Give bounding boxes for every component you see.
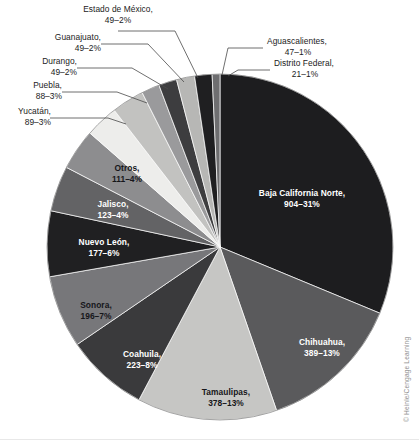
callout-label-aguascalientes: Aguascalientes, 47–1% (267, 36, 329, 58)
callout-label-yucatan: Yucatán, 89–3% (0, 106, 51, 128)
slice-value-coahuila: 223–8% (123, 360, 161, 371)
leader-line-durango (77, 68, 168, 89)
callout-value-estado-de-mexico: 49–2% (83, 15, 153, 26)
slice-name-nuevo-leon: Nuevo León, (79, 237, 130, 247)
callout-value-yucatan: 89–3% (0, 117, 51, 128)
slice-value-baja-california-norte: 904–31% (259, 199, 345, 210)
slice-label-baja-california-norte: Baja California Norte, 904–31% (259, 188, 345, 211)
slice-value-tamaulipas: 378–13% (202, 398, 250, 409)
slice-name-coahuila: Coahuila, (123, 349, 161, 359)
callout-label-estado-de-mexico: Estado de México, 49–2% (83, 4, 153, 26)
slice-value-otros: 111–4% (112, 174, 142, 185)
callout-value-distrito-federal: 21–1% (274, 69, 336, 80)
credit-line: © Heinle/Cengage Learning (403, 337, 410, 422)
slice-value-chihuahua: 389–13% (299, 348, 345, 359)
callout-value-puebla: 88–3% (0, 91, 62, 102)
slice-name-otros: Otros, (115, 163, 140, 173)
callout-name-aguascalientes: Aguascalientes, (267, 36, 327, 46)
slice-name-chihuahua: Chihuahua, (299, 337, 345, 347)
credit-line-wrapper: © Heinle/Cengage Learning (405, 292, 415, 422)
callout-name-guanajuato: Guanajuato, (55, 32, 101, 42)
slice-label-tamaulipas: Tamaulipas, 378–13% (202, 387, 250, 410)
slice-label-sonora: Sonora, 196–7% (80, 300, 112, 323)
slice-name-jalisco: Jalisco, (97, 199, 128, 209)
callout-name-distrito-federal: Distrito Federal, (274, 58, 334, 68)
slice-value-nuevo-leon: 177–6% (79, 248, 130, 259)
callout-label-distrito-federal: Distrito Federal, 21–1% (274, 58, 336, 80)
slice-name-baja-california-norte: Baja California Norte, (259, 188, 345, 198)
leader-line-aguascalientes (222, 48, 263, 75)
callout-name-estado-de-mexico: Estado de México, (83, 4, 153, 14)
slice-name-tamaulipas: Tamaulipas, (202, 387, 250, 397)
slice-label-nuevo-leon: Nuevo León, 177–6% (79, 237, 130, 260)
leader-line-guanajuato (101, 44, 184, 82)
callout-value-aguascalientes: 47–1% (267, 47, 329, 58)
callout-value-guanajuato: 49–2% (0, 43, 101, 54)
callout-name-durango: Durango, (42, 56, 77, 66)
callout-name-puebla: Puebla, (33, 80, 62, 90)
callout-name-yucatan: Yucatán, (18, 106, 51, 116)
slice-value-jalisco: 123–4% (97, 210, 128, 221)
slice-name-sonora: Sonora, (80, 300, 112, 310)
pie-chart-figure: Estado de México, 49–2% Guanajuato, 49–2… (0, 0, 419, 440)
slice-label-otros: Otros, 111–4% (112, 163, 142, 186)
callout-label-durango: Durango, 49–2% (0, 56, 77, 78)
slice-value-sonora: 196–7% (80, 311, 112, 322)
slice-label-chihuahua: Chihuahua, 389–13% (299, 337, 345, 360)
callout-value-durango: 49–2% (0, 67, 77, 78)
callout-label-puebla: Puebla, 88–3% (0, 80, 62, 102)
slice-label-jalisco: Jalisco, 123–4% (97, 199, 128, 222)
slice-label-coahuila: Coahuila, 223–8% (123, 349, 161, 372)
callout-label-guanajuato: Guanajuato, 49–2% (0, 32, 101, 54)
